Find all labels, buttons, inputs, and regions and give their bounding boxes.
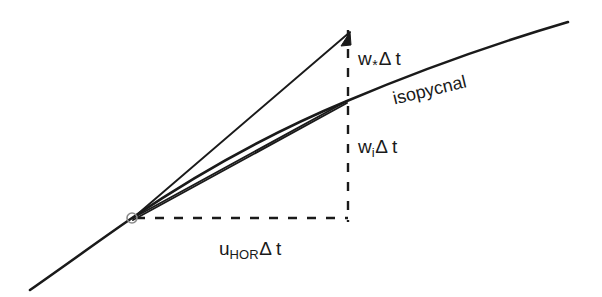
label-w-star-base: w	[358, 48, 372, 69]
isopycnal-curve	[30, 22, 568, 290]
isopycnal-diagram: w*Δt wiΔt uHORΔt isopycnal	[0, 0, 602, 297]
label-u-hor-variable: t	[272, 238, 281, 259]
label-w-i-delta: Δ	[375, 136, 388, 157]
label-w-i-base: w	[358, 136, 372, 157]
isopycnal-slope-vector-lower	[133, 103, 347, 220]
label-u-hor-delta: Δ	[259, 238, 272, 259]
label-u-hor-delta-t: uHORΔt	[219, 239, 281, 261]
label-w-star-delta-t: w*Δt	[358, 49, 401, 72]
label-u-hor-base: u	[219, 238, 230, 259]
label-w-i-variable: t	[388, 136, 397, 157]
label-u-hor-subscript: HOR	[230, 247, 259, 262]
diagram-canvas	[0, 0, 602, 297]
isopycnal-slope-vector-upper	[133, 101, 347, 218]
label-w-i-delta-t: wiΔt	[358, 137, 397, 159]
vertical-velocity-vector	[133, 32, 350, 218]
label-w-star-variable: t	[391, 48, 400, 69]
label-w-star-delta: Δ	[378, 48, 391, 69]
